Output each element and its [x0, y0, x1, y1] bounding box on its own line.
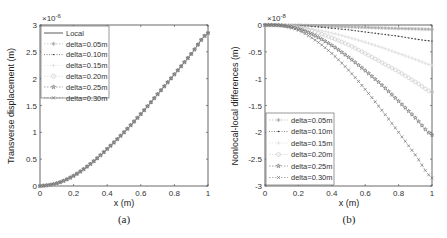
x-tick-label: 0.8: [169, 189, 181, 198]
legend-entry: delta=0.20m: [291, 150, 333, 159]
x-tick-label: 0.6: [135, 189, 147, 198]
y-tick-label: -3: [255, 182, 263, 191]
legend-entry: delta=0.10m: [66, 50, 108, 59]
panel-b-chart: 00.20.40.60.81 0-0.5-1-1.5-2-2.5-3 ×10-8…: [230, 13, 435, 226]
panel-b-ylabel: Nonlocal-local differences (m): [230, 47, 240, 166]
y-tick-label: -1: [255, 75, 263, 84]
y-tick-label: -2: [255, 128, 263, 137]
legend-entry: delta=0.10m: [291, 127, 333, 136]
legend-entry: delta=0.25m: [66, 83, 108, 92]
legend-entry: delta=0.05m: [66, 40, 108, 49]
figure: 00.20.40.60.81 00.511.522.53 ×10-6 x (m)…: [0, 0, 447, 238]
y-tick-label: 1.5: [26, 102, 38, 111]
panel-b-caption: (b): [343, 213, 356, 226]
legend-entry: delta=0.30m: [291, 173, 333, 182]
y-tick-label: 0.5: [26, 155, 38, 164]
legend-entry: delta=0.05m: [291, 116, 333, 125]
legend-entry: delta=0.25m: [291, 162, 333, 171]
x-tick-label: 0.4: [326, 189, 338, 198]
x-tick-label: 0: [38, 189, 43, 198]
y-tick-label: 1: [33, 128, 38, 137]
panel-a-ylabel: Transverse displacement (m): [6, 48, 16, 164]
panel-b-exponent: ×10-8: [267, 13, 287, 23]
y-tick-label: -2.5: [248, 155, 262, 164]
legend-entry: delta=0.30m: [66, 94, 108, 103]
legend-entry: Local: [66, 29, 84, 38]
x-tick-label: 0.2: [293, 189, 305, 198]
panel-b-xlabel: x (m): [339, 198, 360, 208]
y-tick-label: -0.5: [248, 48, 262, 57]
panel-b-legend: delta=0.05mdelta=0.10mdelta=0.15mdelta=0…: [266, 113, 334, 185]
panel-a-exponent: ×10-6: [42, 13, 62, 23]
panel-a-caption: (a): [118, 213, 131, 226]
panel-a-legend: Localdelta=0.05mdelta=0.10mdelta=0.15mde…: [41, 26, 109, 103]
x-tick-label: 1: [430, 189, 435, 198]
y-tick-label: -1.5: [248, 102, 262, 111]
x-tick-label: 0: [263, 189, 268, 198]
panel-a-chart: 00.20.40.60.81 00.511.522.53 ×10-6 x (m)…: [6, 13, 211, 226]
y-tick-label: 0: [258, 21, 263, 30]
y-tick-label: 0: [33, 182, 38, 191]
x-tick-label: 0.4: [102, 189, 114, 198]
x-tick-label: 0.2: [68, 189, 80, 198]
y-tick-label: 3: [33, 21, 38, 30]
x-tick-label: 0.8: [393, 189, 405, 198]
x-tick-label: 0.6: [360, 189, 372, 198]
x-tick-label: 1: [206, 189, 211, 198]
legend-entry: delta=0.20m: [66, 72, 108, 81]
legend-entry: delta=0.15m: [291, 139, 333, 148]
y-tick-label: 2.5: [26, 48, 38, 57]
panel-a-xlabel: x (m): [114, 198, 135, 208]
y-tick-label: 2: [33, 75, 38, 84]
legend-entry: delta=0.15m: [66, 61, 108, 70]
